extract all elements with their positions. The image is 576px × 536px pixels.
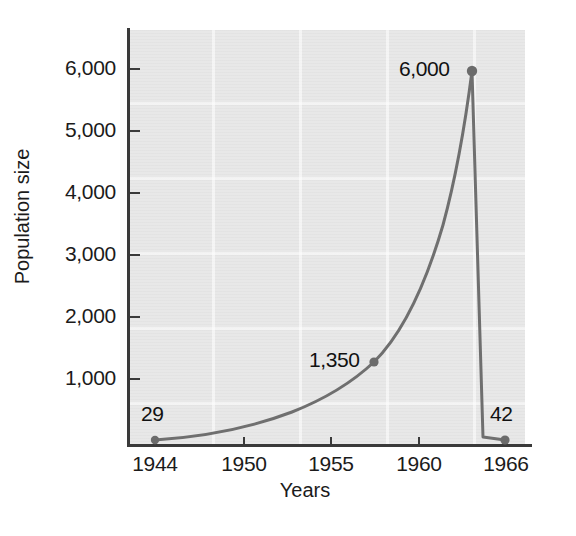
series-line-group — [0, 0, 576, 536]
data-label-6000: 6,000 — [399, 57, 450, 81]
data-marker-1963-peak — [467, 66, 477, 76]
data-marker-1966 — [500, 435, 509, 444]
data-label-42: 42 — [490, 402, 513, 426]
data-label-29: 29 — [141, 402, 164, 426]
population-crash-segment — [472, 71, 505, 440]
data-label-1350: 1,350 — [309, 348, 360, 372]
data-marker-1957 — [369, 357, 378, 366]
data-marker-1944 — [151, 436, 159, 444]
population-growth-curve — [155, 71, 472, 440]
chart-figure: 6,000 5,000 4,000 3,000 2,000 1,000 1944… — [0, 0, 576, 536]
